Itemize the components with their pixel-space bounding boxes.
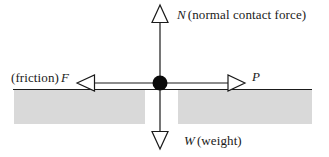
free-body-diagram: N(normal contact force) W(weight) (frict…	[0, 0, 329, 157]
ground-band-left	[14, 90, 145, 124]
weight-force-arrowhead	[152, 132, 168, 150]
normal-force-arrowhead	[152, 5, 168, 23]
normal-force-description: (normal contact force)	[188, 7, 306, 22]
ground-band-right	[178, 90, 312, 124]
applied-force-label: P	[252, 70, 260, 83]
weight-force-symbol: W	[184, 133, 195, 148]
friction-force-arrowhead	[77, 75, 95, 91]
ground-hatching	[14, 90, 312, 124]
weight-force-arrow	[152, 83, 168, 149]
applied-force-arrowhead	[228, 75, 245, 91]
weight-force-description: (weight)	[197, 133, 242, 148]
normal-force-label: N(normal contact force)	[177, 8, 306, 21]
normal-force-symbol: N	[177, 7, 186, 22]
friction-force-arrow	[77, 75, 160, 91]
applied-force-symbol: P	[252, 69, 260, 84]
friction-force-symbol: F	[61, 70, 69, 85]
particle-dot	[153, 76, 168, 91]
normal-force-arrow	[152, 5, 168, 83]
friction-force-label: (friction)F	[11, 71, 69, 84]
weight-force-label: W(weight)	[184, 134, 242, 147]
friction-force-description: (friction)	[11, 70, 59, 85]
applied-force-arrow	[160, 75, 245, 91]
